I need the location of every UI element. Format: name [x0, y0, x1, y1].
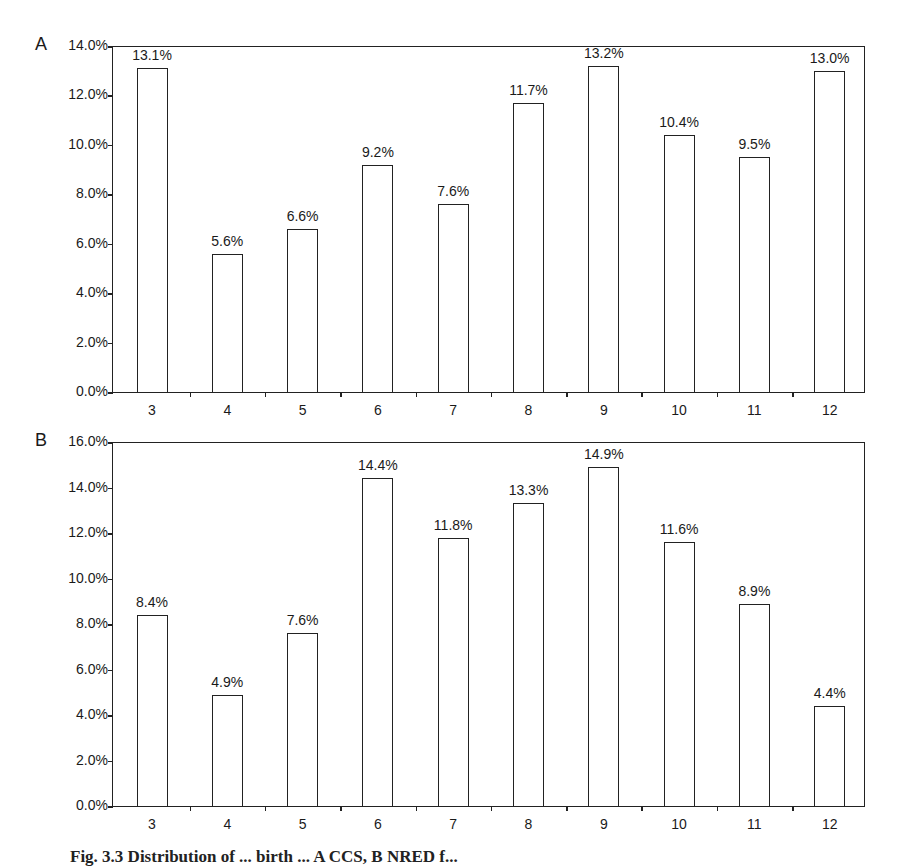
figure-caption: Fig. 3.3 Distribution of ... birth ... A… [70, 847, 458, 867]
bar-value-label: 13.3% [494, 482, 564, 498]
y-tick-mark [108, 293, 113, 295]
bar-value-label: 9.2% [343, 144, 413, 160]
bar-value-label: 13.0% [795, 50, 865, 66]
y-tick-label: 10.0% [44, 570, 108, 586]
y-tick-label: 2.0% [44, 334, 108, 350]
x-tick-mark [416, 806, 418, 811]
bar-value-label: 6.6% [268, 208, 338, 224]
x-tick-label: 11 [734, 816, 774, 832]
y-tick-label: 8.0% [44, 615, 108, 631]
bar-6 [362, 478, 393, 807]
y-tick-label: 2.0% [44, 752, 108, 768]
y-tick-mark [108, 46, 113, 48]
x-tick-label: 5 [283, 402, 323, 418]
x-tick-mark [566, 392, 568, 397]
x-tick-mark [265, 392, 267, 397]
bar-3 [137, 615, 168, 807]
x-tick-mark [340, 392, 342, 397]
bar-5 [287, 229, 318, 393]
x-tick-label: 8 [509, 816, 549, 832]
y-tick-label: 10.0% [44, 136, 108, 152]
bar-8 [513, 503, 544, 807]
y-tick-label: 4.0% [44, 284, 108, 300]
x-tick-label: 12 [810, 816, 850, 832]
y-tick-mark [108, 488, 113, 490]
y-tick-label: 4.0% [44, 706, 108, 722]
bar-7 [438, 538, 469, 807]
bar-value-label: 11.7% [494, 82, 564, 98]
bar-11 [739, 604, 770, 807]
bar-6 [362, 165, 393, 393]
y-tick-mark [108, 95, 113, 97]
x-tick-label: 3 [132, 402, 172, 418]
bar-10 [664, 542, 695, 807]
y-tick-label: 16.0% [44, 433, 108, 449]
y-tick-label: 14.0% [44, 37, 108, 53]
x-tick-mark [717, 392, 719, 397]
y-tick-mark [108, 579, 113, 581]
y-tick-mark [108, 442, 113, 444]
bar-value-label: 10.4% [644, 114, 714, 130]
y-tick-label: 0.0% [44, 383, 108, 399]
bar-value-label: 5.6% [192, 233, 262, 249]
bar-9 [588, 467, 619, 807]
x-tick-mark [190, 806, 192, 811]
x-tick-mark [416, 392, 418, 397]
bar-value-label: 7.6% [418, 183, 488, 199]
bar-value-label: 11.6% [644, 521, 714, 537]
y-tick-label: 6.0% [44, 661, 108, 677]
bar-value-label: 14.4% [343, 457, 413, 473]
y-tick-mark [108, 533, 113, 535]
x-tick-label: 6 [358, 402, 398, 418]
x-tick-mark [491, 806, 493, 811]
y-tick-mark [108, 715, 113, 717]
x-tick-label: 7 [433, 816, 473, 832]
bar-10 [664, 135, 695, 393]
bar-5 [287, 633, 318, 807]
y-tick-mark [108, 194, 113, 196]
x-tick-label: 5 [283, 816, 323, 832]
y-tick-mark [108, 392, 113, 394]
bar-8 [513, 103, 544, 393]
x-tick-mark [641, 392, 643, 397]
x-tick-label: 6 [358, 816, 398, 832]
bar-9 [588, 66, 619, 393]
bar-value-label: 4.4% [795, 685, 865, 701]
y-tick-label: 12.0% [44, 86, 108, 102]
x-tick-mark [190, 392, 192, 397]
y-tick-label: 14.0% [44, 479, 108, 495]
y-tick-mark [108, 244, 113, 246]
x-tick-label: 4 [207, 402, 247, 418]
x-tick-label: 8 [509, 402, 549, 418]
y-tick-mark [108, 806, 113, 808]
x-tick-label: 4 [207, 816, 247, 832]
y-tick-label: 12.0% [44, 524, 108, 540]
bar-11 [739, 157, 770, 393]
x-tick-label: 10 [659, 402, 699, 418]
x-tick-mark [792, 806, 794, 811]
bar-12 [814, 71, 845, 393]
bar-value-label: 4.9% [192, 674, 262, 690]
y-tick-label: 8.0% [44, 185, 108, 201]
y-tick-mark [108, 624, 113, 626]
bar-value-label: 13.2% [569, 45, 639, 61]
x-tick-mark [491, 392, 493, 397]
bar-7 [438, 204, 469, 393]
x-tick-mark [340, 806, 342, 811]
bar-value-label: 9.5% [719, 136, 789, 152]
bar-value-label: 14.9% [569, 446, 639, 462]
x-tick-label: 3 [132, 816, 172, 832]
bar-3 [137, 68, 168, 393]
bar-4 [212, 695, 243, 807]
bar-value-label: 8.4% [117, 594, 187, 610]
y-tick-label: 0.0% [44, 797, 108, 813]
y-tick-mark [108, 670, 113, 672]
bar-12 [814, 706, 845, 807]
bar-value-label: 11.8% [418, 517, 488, 533]
x-tick-mark [717, 806, 719, 811]
bar-value-label: 7.6% [268, 612, 338, 628]
x-tick-label: 11 [734, 402, 774, 418]
x-tick-label: 12 [810, 402, 850, 418]
x-tick-label: 9 [584, 816, 624, 832]
bar-value-label: 13.1% [117, 47, 187, 63]
